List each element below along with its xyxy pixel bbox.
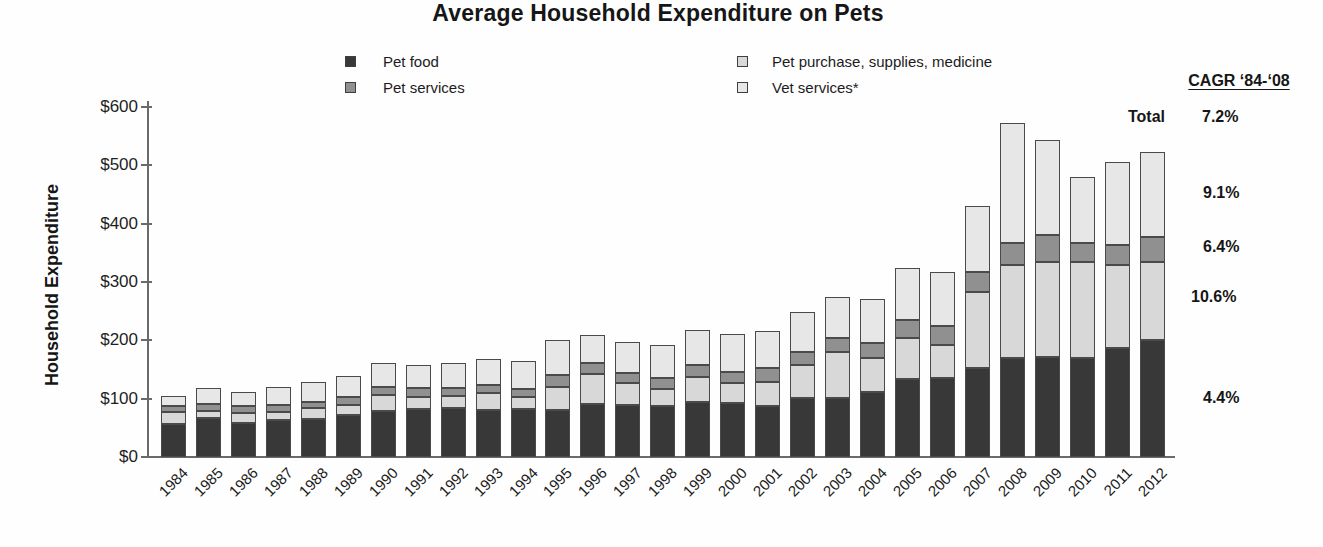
x-tick-label-2004: 2004 (854, 464, 890, 500)
segment-pet-services-1996 (580, 363, 605, 374)
bar-1988 (301, 107, 326, 457)
segment-pet-purchase-supplies-medicine-2002 (790, 365, 815, 398)
cagr-value-pet-purchase: 10.6% (1191, 288, 1236, 306)
segment-pet-purchase-supplies-medicine-2009 (1035, 262, 1060, 357)
segment-pet-purchase-supplies-medicine-2010 (1070, 262, 1095, 358)
segment-pet-purchase-supplies-medicine-2008 (1000, 265, 1025, 358)
x-tick-label-2010: 2010 (1064, 464, 1100, 500)
x-tick-label-2002: 2002 (784, 464, 820, 500)
y-tick-label-0: $0 (62, 447, 138, 467)
segment-pet-purchase-supplies-medicine-2004 (860, 358, 885, 392)
segment-vet-services-2005 (895, 268, 920, 320)
cagr-value-vet-services: 9.1% (1203, 184, 1239, 202)
bar-1996 (580, 107, 605, 457)
segment-pet-services-1984 (161, 406, 186, 412)
segment-pet-food-1994 (511, 409, 536, 457)
bar-2009 (1035, 107, 1060, 457)
x-tick-label-2006: 2006 (924, 464, 960, 500)
segment-pet-services-2002 (790, 352, 815, 365)
segment-vet-services-2002 (790, 312, 815, 352)
y-tick-label-400: $400 (62, 214, 138, 234)
x-tick-label-1992: 1992 (435, 464, 471, 500)
segment-pet-purchase-supplies-medicine-1993 (476, 393, 501, 410)
segment-vet-services-1991 (406, 365, 431, 388)
legend-swatch-pet-services (345, 82, 356, 93)
segment-vet-services-2007 (965, 206, 990, 272)
stacked-bar-chart: Average Household Expenditure on Pets Pe… (0, 0, 1323, 547)
x-tick-label-1993: 1993 (470, 464, 506, 500)
segment-pet-services-1993 (476, 385, 501, 393)
segment-pet-purchase-supplies-medicine-1991 (406, 397, 431, 409)
segment-pet-food-2011 (1105, 348, 1130, 457)
bar-1985 (196, 107, 221, 457)
segment-vet-services-1984 (161, 396, 186, 407)
x-tick-label-1998: 1998 (645, 464, 681, 500)
segment-pet-food-1984 (161, 424, 186, 457)
segment-pet-purchase-supplies-medicine-1995 (545, 387, 570, 410)
bar-1993 (476, 107, 501, 457)
segment-vet-services-1986 (231, 392, 256, 406)
x-tick-label-2005: 2005 (889, 464, 925, 500)
segment-pet-food-1998 (650, 406, 675, 457)
x-tick-label-1994: 1994 (505, 464, 541, 500)
bar-1984 (161, 107, 186, 457)
bar-2011 (1105, 107, 1130, 457)
bar-1995 (545, 107, 570, 457)
plot-area (148, 107, 1174, 457)
segment-pet-food-2005 (895, 379, 920, 457)
segment-pet-services-1994 (511, 389, 536, 397)
bar-1991 (406, 107, 431, 457)
chart-title: Average Household Expenditure on Pets (0, 0, 1316, 27)
segment-pet-food-2004 (860, 392, 885, 457)
x-tick-label-1995: 1995 (540, 464, 576, 500)
segment-pet-services-1988 (301, 402, 326, 408)
x-tick-label-2008: 2008 (994, 464, 1030, 500)
segment-pet-purchase-supplies-medicine-1988 (301, 408, 326, 419)
segment-pet-food-1987 (266, 420, 291, 457)
bar-1986 (231, 107, 256, 457)
y-axis-title: Household Expenditure (42, 184, 63, 386)
bar-1998 (650, 107, 675, 457)
x-tick-label-2012: 2012 (1134, 464, 1170, 500)
segment-pet-food-2001 (755, 406, 780, 457)
segment-pet-services-1987 (266, 405, 291, 412)
cagr-value-pet-services: 6.4% (1203, 238, 1239, 256)
segment-pet-purchase-supplies-medicine-1986 (231, 413, 256, 423)
x-tick-label-1989: 1989 (330, 464, 366, 500)
segment-vet-services-1999 (685, 330, 710, 365)
segment-pet-food-1992 (441, 408, 466, 457)
bar-2007 (965, 107, 990, 457)
segment-pet-food-1996 (580, 404, 605, 457)
y-tick-label-600: $600 (62, 97, 138, 117)
segment-vet-services-1998 (650, 345, 675, 378)
segment-pet-food-2012 (1140, 340, 1165, 457)
segment-pet-food-2008 (1000, 358, 1025, 457)
segment-pet-food-1989 (336, 415, 361, 457)
x-tick-label-1990: 1990 (365, 464, 401, 500)
x-tick-label-1996: 1996 (575, 464, 611, 500)
segment-pet-food-2002 (790, 398, 815, 457)
segment-pet-purchase-supplies-medicine-1990 (371, 395, 396, 411)
segment-vet-services-1992 (441, 363, 466, 388)
segment-pet-purchase-supplies-medicine-2005 (895, 338, 920, 379)
segment-pet-services-1998 (650, 378, 675, 389)
segment-pet-services-1985 (196, 404, 221, 411)
segment-pet-food-1986 (231, 423, 256, 457)
y-tick-label-500: $500 (62, 155, 138, 175)
segment-vet-services-1990 (371, 363, 396, 387)
segment-vet-services-2006 (930, 272, 955, 326)
segment-pet-food-1993 (476, 410, 501, 457)
x-tick-label-2007: 2007 (959, 464, 995, 500)
x-tick-label-1997: 1997 (610, 464, 646, 500)
segment-pet-services-2005 (895, 320, 920, 338)
segment-vet-services-1995 (545, 340, 570, 375)
x-tick-label-2000: 2000 (715, 464, 751, 500)
bar-1989 (336, 107, 361, 457)
segment-vet-services-1994 (511, 361, 536, 389)
bar-1997 (615, 107, 640, 457)
y-tick-label-100: $100 (62, 389, 138, 409)
segment-pet-food-2003 (825, 398, 850, 457)
segment-pet-purchase-supplies-medicine-1998 (650, 389, 675, 407)
segment-pet-services-1991 (406, 388, 431, 397)
segment-pet-purchase-supplies-medicine-1987 (266, 412, 291, 420)
